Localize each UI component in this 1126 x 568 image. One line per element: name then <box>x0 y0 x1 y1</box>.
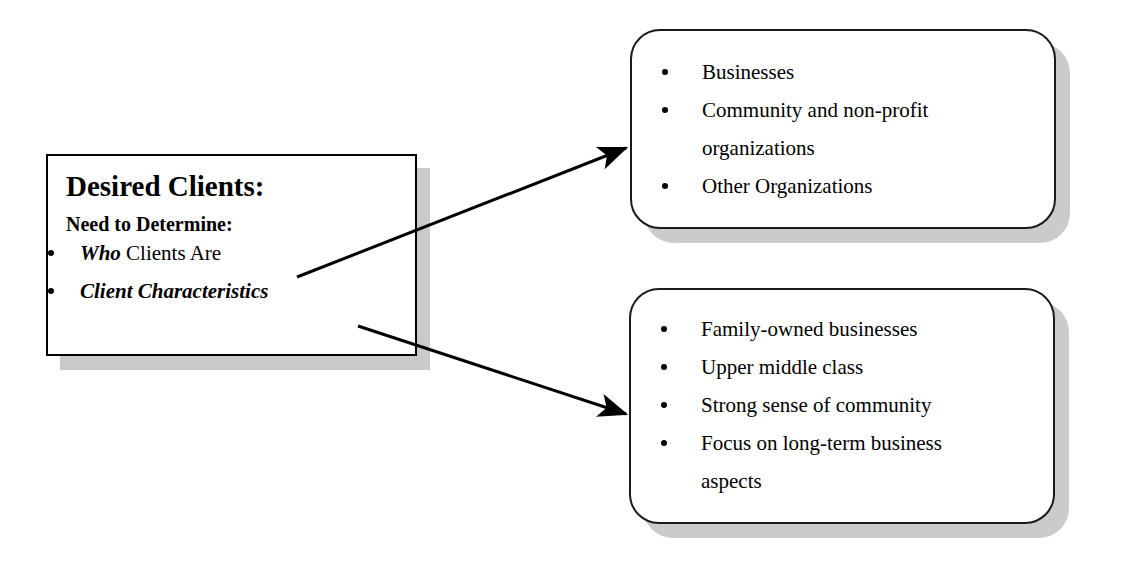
diagram-canvas: Desired Clients: Need to Determine: Who … <box>0 0 1126 568</box>
list-item-label: Strong sense of community <box>701 393 931 417</box>
bottom-right-node[interactable]: Family-owned businesses Upper middle cla… <box>629 288 1055 524</box>
list-item[interactable]: Other Organizations <box>662 167 1054 205</box>
list-item[interactable]: Focus on long-term business aspects <box>661 424 951 500</box>
list-item[interactable]: Strong sense of community <box>661 386 1053 424</box>
bullet-icon <box>661 326 667 332</box>
top-right-node-list: Businesses Community and non-profit orga… <box>662 31 1054 205</box>
source-node-list: Who Clients Are Client Characteristics <box>48 234 415 310</box>
source-node-subtitle: Need to Determine: <box>48 201 415 234</box>
list-item-label: Other Organizations <box>702 174 872 198</box>
list-item-label: Family-owned businesses <box>701 317 917 341</box>
bullet-icon <box>48 288 54 294</box>
list-item-emphasis: Client Characteristics <box>80 279 268 303</box>
top-right-node[interactable]: Businesses Community and non-profit orga… <box>630 29 1056 229</box>
list-item-label: Focus on long-term business aspects <box>701 431 942 493</box>
bullet-icon <box>661 364 667 370</box>
list-item[interactable]: Family-owned businesses <box>661 310 1053 348</box>
list-item-emphasis: Who <box>80 241 121 265</box>
list-item[interactable]: Client Characteristics <box>48 272 415 310</box>
list-item-label: Upper middle class <box>701 355 863 379</box>
bullet-icon <box>661 440 667 446</box>
bullet-icon <box>48 250 54 256</box>
list-item-label: Clients Are <box>121 241 221 265</box>
list-item[interactable]: Who Clients Are <box>48 234 415 272</box>
list-item[interactable]: Community and non-profit organizations <box>662 91 1032 167</box>
list-item-label: Businesses <box>702 60 794 84</box>
list-item[interactable]: Upper middle class <box>661 348 1053 386</box>
bullet-icon <box>662 107 668 113</box>
page-title: Desired Clients: <box>48 156 415 201</box>
bullet-icon <box>662 69 668 75</box>
list-item-label: Community and non-profit organizations <box>702 98 928 160</box>
bottom-right-node-list: Family-owned businesses Upper middle cla… <box>661 290 1053 500</box>
list-item[interactable]: Businesses <box>662 53 1054 91</box>
bullet-icon <box>662 183 668 189</box>
source-node[interactable]: Desired Clients: Need to Determine: Who … <box>46 154 417 356</box>
bullet-icon <box>661 402 667 408</box>
